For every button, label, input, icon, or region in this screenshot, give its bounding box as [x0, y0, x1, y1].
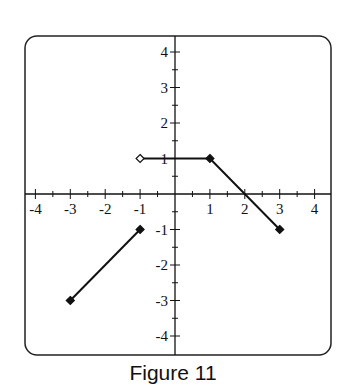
x-tick-label: 4	[311, 201, 319, 217]
function-graph: -4-3-2-112344321-1-2-3-4	[0, 0, 346, 360]
x-tick-label: -3	[64, 201, 77, 217]
y-tick-label: 3	[161, 80, 169, 96]
y-tick-label: -4	[156, 328, 169, 344]
plot-frame	[25, 36, 331, 355]
x-tick-label: -1	[134, 201, 147, 217]
x-tick-label: -2	[99, 201, 112, 217]
x-tick-label: 2	[241, 201, 249, 217]
x-tick-label: 1	[206, 201, 214, 217]
y-tick-label: -2	[156, 257, 169, 273]
x-tick-label: 3	[276, 201, 284, 217]
y-tick-label: -1	[156, 222, 169, 238]
x-tick-label: -4	[29, 201, 42, 217]
y-tick-label: -3	[156, 293, 169, 309]
y-tick-label: 2	[161, 115, 169, 131]
y-tick-label: 4	[161, 44, 169, 60]
figure-caption: Figure 11	[0, 361, 346, 385]
